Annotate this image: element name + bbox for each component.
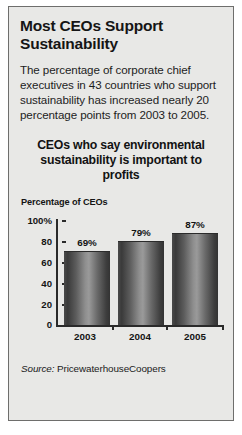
bar-item: 79% xyxy=(118,219,164,325)
bar-item: 69% xyxy=(64,219,110,325)
source-label: Source: xyxy=(21,363,54,374)
x-axis-tick-mark xyxy=(166,325,168,330)
bar-item: 87% xyxy=(172,219,218,325)
y-axis-tick: 20 xyxy=(41,304,58,306)
bar-2003[interactable] xyxy=(64,251,110,324)
infographic-panel: Most CEOs Support Sustainability The per… xyxy=(8,6,234,421)
plot-area: 100% 80 60 40 20 0 xyxy=(56,219,222,327)
x-axis: 2003 2004 2005 xyxy=(56,331,222,347)
y-axis-tick: 100% xyxy=(27,220,58,222)
y-axis-label: Percentage of CEOs xyxy=(21,197,222,207)
bar-value-label: 87% xyxy=(185,219,205,230)
x-axis-tick-mark xyxy=(112,325,114,330)
bar-2004[interactable] xyxy=(118,241,164,325)
bar-2005[interactable] xyxy=(172,233,218,325)
source-note: Source: PricewaterhouseCoopers xyxy=(21,363,222,374)
chart-title: CEOs who say environmental sustainabilit… xyxy=(22,138,220,183)
bar-group: 69% 79% 87% xyxy=(64,219,218,325)
x-axis-label-2003: 2003 xyxy=(62,331,108,342)
y-axis-tick: 40 xyxy=(41,283,58,285)
y-axis-tick: 80 xyxy=(41,241,58,243)
summary-text: The percentage of corporate chief execut… xyxy=(20,62,222,122)
x-axis-label-2005: 2005 xyxy=(172,331,218,342)
x-axis-tick-mark xyxy=(222,325,224,330)
source-name: PricewaterhouseCoopers xyxy=(57,363,166,374)
bar-chart: 100% 80 60 40 20 0 xyxy=(20,213,224,349)
bar-value-label: 79% xyxy=(131,227,151,238)
y-axis-tick: 60 xyxy=(41,262,58,264)
x-axis-label-2004: 2004 xyxy=(117,331,163,342)
page-title: Most CEOs Support Sustainability xyxy=(20,17,222,53)
bar-value-label: 69% xyxy=(77,237,97,248)
